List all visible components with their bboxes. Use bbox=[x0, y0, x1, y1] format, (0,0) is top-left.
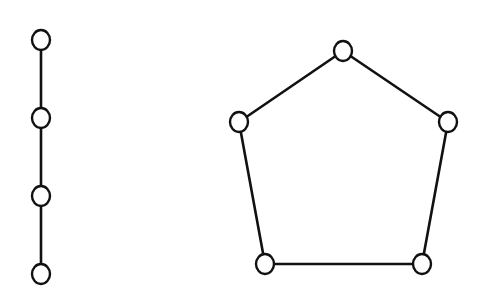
edge-c2-c3 bbox=[422, 122, 448, 264]
node-c1 bbox=[334, 41, 352, 61]
node-c4 bbox=[256, 254, 274, 274]
cycle-graph bbox=[230, 41, 457, 274]
graph-diagram bbox=[0, 0, 484, 303]
edge-c1-c2 bbox=[343, 51, 448, 122]
node-c2 bbox=[439, 112, 457, 132]
graphs-layer bbox=[32, 30, 457, 284]
node-p3 bbox=[32, 186, 50, 206]
path-graph bbox=[32, 30, 50, 284]
node-p4 bbox=[32, 264, 50, 284]
node-c3 bbox=[413, 254, 431, 274]
node-p1 bbox=[32, 30, 50, 50]
node-c5 bbox=[230, 112, 248, 132]
edge-c5-c1 bbox=[239, 51, 343, 122]
edge-c4-c5 bbox=[239, 122, 265, 264]
node-p2 bbox=[32, 108, 50, 128]
